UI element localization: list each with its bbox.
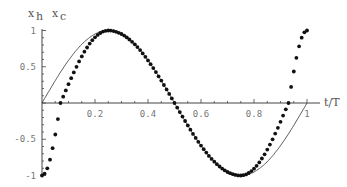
series-xc-dot: [305, 29, 309, 33]
series-xc-dot: [273, 132, 277, 136]
series-xc-dot: [178, 110, 182, 114]
series-xc-dot: [80, 55, 84, 59]
series-xc-dot: [196, 140, 200, 144]
series-xc-dot: [75, 65, 79, 69]
series-xc-dot: [165, 88, 169, 92]
series-xc-dot: [279, 120, 283, 124]
series-xc-dot: [183, 119, 187, 123]
chart: 0.20.40.60.8110.5-0.5-1xhxct/T: [0, 0, 347, 187]
series-xc-dot: [170, 97, 174, 101]
series-xc-dot: [252, 167, 256, 171]
series-xc-dot: [157, 74, 161, 78]
series-xc-dot: [53, 133, 57, 137]
x-tick-label: 0.4: [140, 109, 156, 119]
y-tick-label: 0.5: [20, 62, 36, 72]
series-xc-dot: [297, 44, 301, 48]
y-axis-title-xh-sub: h: [36, 10, 43, 23]
series-xc-dot: [295, 56, 299, 60]
series-xc-dot: [48, 158, 52, 162]
series-xc-dot: [146, 59, 150, 63]
series-xc-dot: [162, 83, 166, 87]
y-axis-title-xc: x: [52, 7, 59, 20]
series-xc-dot: [77, 60, 81, 64]
series-xc-dot: [207, 154, 211, 158]
series-xc-dot: [300, 36, 304, 40]
series-xc-dot: [45, 166, 49, 170]
series-xc-dot: [149, 62, 153, 66]
series-xc-dot: [67, 82, 71, 86]
series-xc-dot: [175, 106, 179, 110]
series-xc-dot: [257, 161, 261, 165]
x-tick-label: 0.2: [87, 109, 103, 119]
series-xc-dot: [194, 136, 198, 140]
x-tick-label: 0.8: [246, 109, 262, 119]
series-xc-dot: [83, 50, 87, 54]
series-xc-dot: [284, 107, 288, 111]
series-xc-dot: [88, 42, 92, 46]
series-xc-dot: [271, 137, 275, 141]
series-xc-dot: [43, 172, 47, 176]
series-xc-dot: [189, 128, 193, 132]
series-xc-dot: [276, 126, 280, 130]
y-axis-title-xc-sub: c: [60, 10, 66, 23]
series-xc-dot: [141, 52, 145, 56]
y-tick-label: -1: [25, 171, 36, 181]
series-xc-dot: [59, 101, 63, 105]
series-xc-dot: [144, 55, 148, 59]
series-xc-dot: [191, 132, 195, 136]
series-xc-dot: [263, 152, 267, 156]
series-xc-dot: [136, 45, 140, 49]
series-xc-dot: [56, 117, 60, 121]
series-xc-dot: [268, 143, 272, 147]
series-xc-dot: [255, 164, 259, 168]
series-xc-dot: [281, 114, 285, 118]
y-axis-title-xh: x: [28, 7, 35, 20]
series-xc-dot: [173, 101, 177, 105]
series-xc-dot: [69, 76, 73, 80]
series-xc-dot: [167, 92, 171, 96]
x-tick-label: 0.6: [193, 109, 209, 119]
series-xc-dot: [292, 70, 296, 74]
series-xc-dot: [210, 157, 214, 161]
series-xc-dot: [133, 42, 137, 46]
series-xc-dot: [186, 124, 190, 128]
y-tick-label: -0.5: [14, 134, 36, 144]
series-xc-dot: [138, 48, 142, 52]
series-xc-dot: [154, 70, 158, 74]
series-xc-dot: [202, 147, 206, 151]
y-tick-label: 1: [31, 26, 36, 36]
series-xc-dot: [51, 146, 55, 150]
series-xc-dot: [181, 115, 185, 119]
series-xc-dot: [289, 85, 293, 89]
series-xc-dot: [199, 144, 203, 148]
series-xc-dot: [260, 157, 264, 161]
x-tick-label: 1: [304, 109, 309, 119]
x-axis-title: t/T: [324, 96, 340, 109]
series-xc-dot: [287, 101, 291, 105]
series-xc-dot: [204, 151, 208, 155]
series-xc-dot: [159, 79, 163, 83]
series-xc-dot: [85, 46, 89, 50]
series-xc-dot: [90, 38, 94, 42]
series-xc-dot: [151, 66, 155, 70]
series-xc-dot: [61, 95, 65, 99]
series-xc-dot: [64, 89, 68, 93]
series-xc-dot: [265, 148, 269, 152]
series-xc-dot: [72, 71, 76, 75]
